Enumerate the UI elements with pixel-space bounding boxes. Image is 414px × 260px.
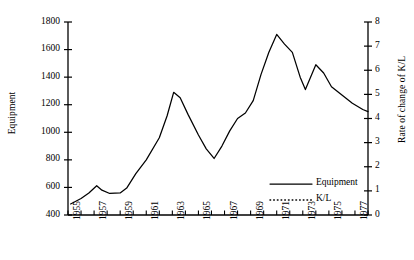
y-axis-title-right: Rate of change of K/L — [397, 83, 407, 143]
x-tick-label: 1969 — [255, 201, 265, 220]
y-tick-label-right: 3 — [375, 136, 395, 146]
dual-axis-line-chart — [0, 0, 414, 260]
x-tick-label: 1975 — [333, 201, 343, 220]
y-axis-title-left: Equipment — [7, 83, 17, 143]
y-tick-label-right: 0 — [375, 209, 395, 219]
x-tick-label: 1967 — [229, 201, 239, 220]
y-tick-label-right: 2 — [375, 160, 395, 170]
x-tick-label: 1977 — [359, 201, 369, 220]
x-tick-label: 1957 — [98, 201, 108, 220]
y-tick-label-right: 6 — [375, 64, 395, 74]
y-tick-label-left: 800 — [26, 153, 60, 163]
y-tick-label-left: 1800 — [26, 16, 60, 26]
y-tick-label-left: 1000 — [26, 126, 60, 136]
y-tick-label-left: 1600 — [26, 43, 60, 53]
legend-label: K/L — [316, 193, 331, 203]
x-tick-label: 1955 — [72, 201, 82, 220]
y-tick-label-right: 5 — [375, 88, 395, 98]
legend-label: Equipment — [316, 177, 358, 187]
x-tick-label: 1965 — [202, 201, 212, 220]
y-tick-label-left: 1400 — [26, 71, 60, 81]
y-tick-label-right: 1 — [375, 184, 395, 194]
x-tick-label: 1961 — [150, 201, 160, 220]
y-tick-label-right: 8 — [375, 16, 395, 26]
y-tick-label-right: 7 — [375, 40, 395, 50]
x-tick-label: 1971 — [281, 201, 291, 220]
y-tick-label-left: 1200 — [26, 98, 60, 108]
x-tick-label: 1973 — [307, 201, 317, 220]
y-tick-label-left: 400 — [26, 209, 60, 219]
y-tick-label-left: 600 — [26, 181, 60, 191]
x-tick-label: 1963 — [176, 201, 186, 220]
y-tick-label-right: 4 — [375, 112, 395, 122]
x-tick-label: 1959 — [124, 201, 134, 220]
